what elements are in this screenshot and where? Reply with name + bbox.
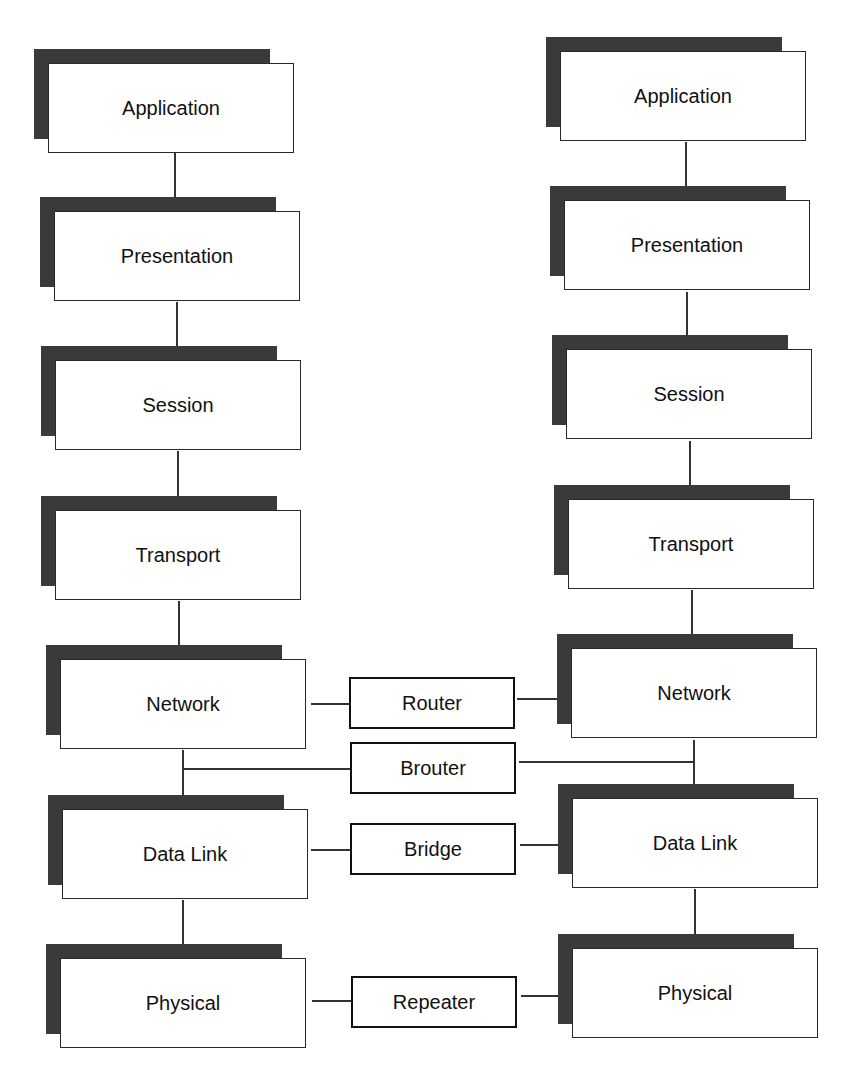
link-left-repeater: [312, 1000, 352, 1002]
layer-box: Presentation: [564, 200, 810, 290]
right-layer-presentation: Presentation: [564, 200, 810, 290]
device-label: Bridge: [404, 838, 462, 861]
layer-box: Session: [55, 360, 301, 450]
layer-box: Application: [560, 51, 806, 141]
right-layer-physical: Physical: [572, 948, 818, 1038]
right-layer-network: Network: [571, 648, 817, 738]
bridge-box: Bridge: [350, 823, 516, 875]
link-brouter-right: [519, 761, 694, 763]
right-layer-session: Session: [566, 349, 812, 439]
left-layer-data-link: Data Link: [62, 809, 308, 899]
left-layer-transport: Transport: [55, 510, 301, 600]
layer-box: Transport: [568, 499, 814, 589]
layer-label: Transport: [136, 544, 221, 567]
right-layer-data-link: Data Link: [572, 798, 818, 888]
layer-box: Network: [571, 648, 817, 738]
brouter-box: Brouter: [350, 742, 516, 794]
layer-box: Data Link: [62, 809, 308, 899]
left-layer-session: Session: [55, 360, 301, 450]
layer-label: Network: [146, 693, 219, 716]
link-repeater-right: [521, 995, 563, 997]
layer-box: Network: [60, 659, 306, 749]
device-label: Brouter: [400, 757, 466, 780]
layer-box: Physical: [60, 958, 306, 1048]
router-box: Router: [349, 677, 515, 729]
layer-label: Presentation: [121, 245, 233, 268]
left-layer-application: Application: [48, 63, 294, 153]
right-layer-transport: Transport: [568, 499, 814, 589]
link-router-right: [517, 698, 561, 700]
device-label: Router: [402, 692, 462, 715]
layer-label: Physical: [146, 992, 220, 1015]
left-layer-physical: Physical: [60, 958, 306, 1048]
link-left-bridge: [311, 849, 351, 851]
layer-label: Network: [657, 682, 730, 705]
osi-interconnect-diagram: Application Presentation Session Transpo…: [0, 0, 857, 1089]
layer-box: Session: [566, 349, 812, 439]
layer-box: Transport: [55, 510, 301, 600]
layer-label: Session: [653, 383, 724, 406]
layer-label: Data Link: [143, 843, 228, 866]
left-layer-network: Network: [60, 659, 306, 749]
layer-label: Data Link: [653, 832, 738, 855]
link-left-brouter: [183, 768, 351, 770]
layer-box: Application: [48, 63, 294, 153]
left-layer-presentation: Presentation: [54, 211, 300, 301]
layer-box: Physical: [572, 948, 818, 1038]
layer-box: Presentation: [54, 211, 300, 301]
layer-label: Session: [142, 394, 213, 417]
layer-label: Application: [122, 97, 220, 120]
link-bridge-right: [520, 844, 562, 846]
layer-box: Data Link: [572, 798, 818, 888]
right-layer-application: Application: [560, 51, 806, 141]
layer-label: Transport: [649, 533, 734, 556]
layer-label: Presentation: [631, 234, 743, 257]
layer-label: Physical: [658, 982, 732, 1005]
device-label: Repeater: [393, 991, 475, 1014]
link-left-router: [311, 703, 351, 705]
repeater-box: Repeater: [351, 976, 517, 1028]
layer-label: Application: [634, 85, 732, 108]
